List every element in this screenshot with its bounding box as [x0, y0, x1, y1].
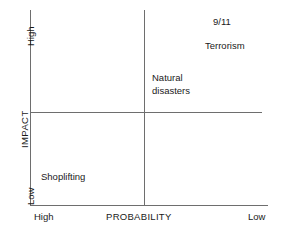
y-axis-tick-low: Low: [26, 188, 36, 205]
y-axis-title: IMPACT: [20, 110, 30, 148]
y-axis-tick-high: High: [26, 26, 36, 46]
x-axis-tick-high: High: [34, 212, 54, 222]
data-label-shoplifting: Shoplifting: [41, 171, 85, 184]
data-label-natural-disasters: Natural disasters: [152, 72, 190, 97]
quadrant-divider-vertical: [144, 10, 145, 206]
data-label-terrorism: Terrorism: [205, 40, 245, 53]
data-label-nine-eleven: 9/11: [213, 16, 231, 29]
x-axis-tick-low: Low: [248, 212, 265, 222]
x-axis-line: [30, 205, 268, 206]
x-axis-title: PROBABILITY: [106, 212, 172, 222]
quadrant-divider-horizontal: [30, 112, 262, 113]
risk-matrix-chart: High Low IMPACT High Low PROBABILITY 9/1…: [0, 0, 283, 232]
